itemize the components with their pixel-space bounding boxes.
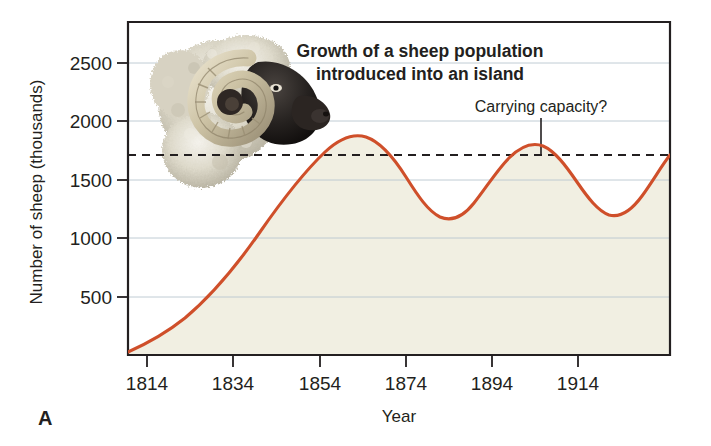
chart-title-line1: Growth of a sheep population xyxy=(297,41,544,61)
xtick-label-1834: 1834 xyxy=(212,373,255,394)
ytick-label-500: 500 xyxy=(80,287,112,308)
carrying-capacity-label: Carrying capacity? xyxy=(475,98,608,115)
x-axis-ticks: 1814 1834 1854 1874 1894 1914 xyxy=(126,355,600,394)
ytick-label-1000: 1000 xyxy=(70,228,112,249)
panel-label: A xyxy=(38,407,52,429)
y-axis-ticks: 2500 2000 1500 1000 500 xyxy=(70,53,128,308)
figure-panel-a: 2500 2000 1500 1000 500 1814 1834 1854 1… xyxy=(0,0,711,446)
xtick-label-1854: 1854 xyxy=(299,373,342,394)
xtick-label-1914: 1914 xyxy=(557,373,600,394)
ytick-label-1500: 1500 xyxy=(70,170,112,191)
chart-svg: 2500 2000 1500 1000 500 1814 1834 1854 1… xyxy=(0,0,711,446)
xtick-label-1894: 1894 xyxy=(471,373,514,394)
xtick-label-1814: 1814 xyxy=(126,373,169,394)
xtick-label-1874: 1874 xyxy=(385,373,428,394)
chart-title-line2: introduced into an island xyxy=(316,64,524,84)
x-axis-title: Year xyxy=(382,407,417,426)
ytick-label-2000: 2000 xyxy=(70,111,112,132)
y-axis-title: Number of sheep (thousands) xyxy=(27,80,46,305)
ytick-label-2500: 2500 xyxy=(70,53,112,74)
